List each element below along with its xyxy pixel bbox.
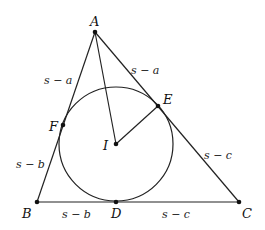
label-i: I [102, 138, 109, 153]
label-e: E [162, 92, 173, 107]
label-bf: s − b [16, 158, 45, 171]
point-d [114, 200, 119, 205]
label-d: D [110, 206, 122, 221]
label-af: s − a [44, 74, 72, 87]
point-e [156, 104, 161, 109]
point-f [61, 123, 66, 128]
label-ce: s − c [204, 149, 232, 162]
label-b: B [21, 206, 32, 221]
point-c [237, 200, 242, 205]
segment-ie [116, 106, 158, 144]
diagram-canvas: A B C D E F I s − a s − a s − b s − b s … [0, 0, 265, 230]
label-cd: s − c [162, 208, 190, 221]
point-b [35, 200, 40, 205]
point-i [114, 142, 119, 147]
label-f: F [48, 119, 59, 134]
side-ac [95, 32, 239, 202]
label-c: C [242, 206, 252, 221]
incircle-diagram: A B C D E F I s − a s − a s − b s − b s … [0, 0, 265, 230]
label-ae: s − a [131, 64, 159, 77]
label-bd: s − b [62, 208, 91, 221]
label-a: A [89, 14, 99, 29]
point-a [93, 30, 98, 35]
